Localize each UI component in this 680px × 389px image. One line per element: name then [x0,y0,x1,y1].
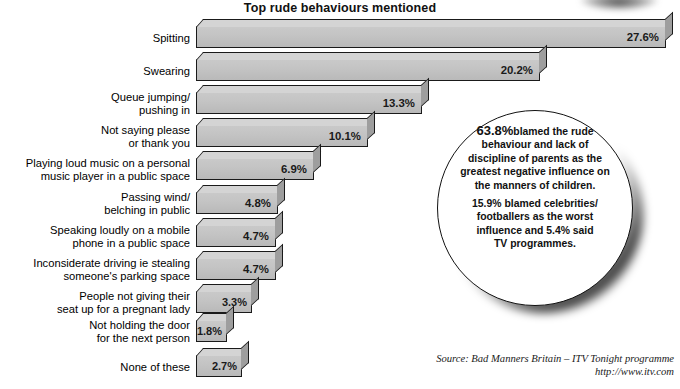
category-label: Playing loud music on a personal music p… [0,157,190,182]
bar-3: 13.3% [196,92,422,114]
bar-top-face [196,85,429,93]
callout-headline-percent: 63.8% [476,123,513,138]
bar-side-face [421,78,429,107]
bar-1: 27.6% [196,26,666,48]
bar-top-face [196,118,375,126]
bar-side-face [539,45,547,74]
bar-9: 3.3% [196,291,252,313]
bar-side-face [226,306,234,335]
bar-value-label: 10.1% [329,130,361,142]
bar-side-face [367,111,375,140]
bar-top-face [196,284,259,292]
bar-2: 20.2% [196,59,540,81]
bar-side-face [313,144,321,173]
bar-value-label: 4.8% [245,197,271,209]
bar-5: 6.9% [196,158,314,180]
category-label: Speaking loudly on a mobile phone in a p… [0,224,190,249]
bar-8: 4.7% [196,258,276,280]
bar-top-face [196,52,547,60]
bar-value-label: 6.9% [281,163,307,175]
bar-side-face [665,12,673,41]
bar-value-label: 13.3% [383,97,415,109]
category-label: Not holding the door for the next person [0,319,190,344]
bar-value-label: 4.7% [243,230,269,242]
bar-11: 2.7% [196,355,242,377]
bar-value-label: 2.7% [212,360,237,372]
callout-paragraph-1: 63.8%blamed the rude behaviour and lack … [442,124,628,192]
bar-side-face [275,244,283,273]
bar-top-face [196,151,321,159]
bar-value-label: 20.2% [501,64,533,76]
bar-value-label: 1.8% [197,325,222,337]
bar-value-label: 27.6% [627,31,659,43]
bar-side-face [277,178,285,207]
category-label: People not giving their seat up for a pr… [0,290,190,315]
category-label: None of these [0,361,190,374]
source-line-2[interactable]: http://www.itv.com [254,365,674,378]
category-label: Spitting [0,32,190,45]
bar-top-face [196,251,283,259]
bar-value-label: 3.3% [222,296,247,308]
bar-value-label: 4.7% [243,263,269,275]
bar-7: 4.7% [196,225,276,247]
statistics-callout-circle: 63.8%blamed the rude behaviour and lack … [437,110,633,306]
bar-4: 10.1% [196,125,368,147]
category-label: Inconsiderate driving ie stealing someon… [0,257,190,282]
source-line-1: Source: Bad Manners Britain – ITV Tonigh… [254,352,674,365]
bar-10: 1.8% [196,320,227,342]
bar-top-face [196,19,673,27]
bar-6: 4.8% [196,192,278,214]
bar-top-face [196,218,283,226]
category-label: Passing wind/ belching in public [0,191,190,216]
chart-canvas: Top rude behaviours mentioned Spitting27… [0,0,680,389]
bar-side-face [275,211,283,240]
bar-top-face [196,185,285,193]
bar-side-face [241,341,249,370]
bar-side-face [251,277,259,306]
category-label: Queue jumping/ pushing in [0,91,190,116]
category-label: Swearing [0,65,190,78]
callout-paragraph-2: 15.9% blamed celebrities/ footballers as… [442,197,628,251]
category-label: Not saying please or thank you [0,124,190,149]
